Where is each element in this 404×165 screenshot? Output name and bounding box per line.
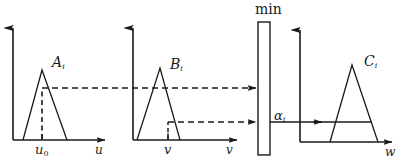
panel-b <box>133 28 256 140</box>
panel-a-tick-subscript: 0 <box>43 149 48 158</box>
panel-c-membership-triangle <box>330 65 378 142</box>
panel-a-axis-label: u <box>95 144 103 156</box>
panel-c <box>300 30 392 142</box>
panel-a-set-subscript: i <box>62 62 65 71</box>
alpha-subscript: i <box>283 115 286 124</box>
panel-b-axis-label: v <box>226 144 233 156</box>
min-operator <box>258 22 270 155</box>
panel-b-tick-label: v <box>164 143 171 156</box>
diagram-canvas <box>0 0 404 165</box>
panel-a-tick-label: u0 <box>35 143 48 158</box>
panel-a-set-label: Ai <box>52 55 65 71</box>
panel-b-membership-triangle <box>137 68 180 140</box>
panel-b-set-subscript: i <box>180 64 183 73</box>
panel-c-set-subscript: i <box>375 61 378 70</box>
panel-a <box>13 28 256 140</box>
panel-a-membership-triangle <box>23 70 67 140</box>
min-operator-box <box>258 22 270 155</box>
panel-b-set-label: Bi <box>170 57 183 73</box>
fuzzy-inference-diagram: Ai u0 u Bi v v min αi Ci w <box>0 0 404 165</box>
panel-c-axis-label: w <box>385 146 395 158</box>
min-operator-label: min <box>255 2 282 16</box>
alpha-label: αi <box>274 109 285 124</box>
panel-c-set-label: Ci <box>364 54 377 70</box>
